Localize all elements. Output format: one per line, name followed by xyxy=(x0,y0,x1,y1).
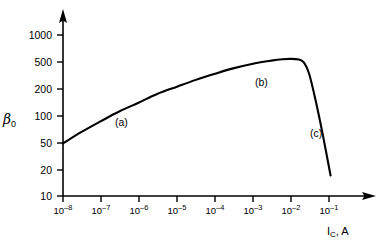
x-tick-exp: –3 xyxy=(254,203,262,212)
x-axis-title: IC, A xyxy=(327,226,349,237)
y-axis-ticks xyxy=(57,35,63,196)
x-tick-exp: –5 xyxy=(178,203,186,212)
x-tick-label-1e-7: 10–7 xyxy=(81,206,121,216)
x-tick-base: 10 xyxy=(92,205,103,216)
x-tick-label-1e-8: 10–8 xyxy=(43,206,83,216)
x-axis-title-suffix: , A xyxy=(336,225,349,237)
y-axis-title-main: β xyxy=(3,111,11,127)
x-tick-base: 10 xyxy=(206,205,217,216)
x-tick-label-1e-2: 10–2 xyxy=(271,206,311,216)
x-tick-base: 10 xyxy=(282,205,293,216)
annotation-c: (c) xyxy=(310,128,322,139)
y-tick-label-200: 200 xyxy=(8,84,52,95)
y-axis-title-sub: 0 xyxy=(11,119,16,129)
y-tick-label-500: 500 xyxy=(8,57,52,68)
y-axis xyxy=(59,9,67,196)
y-tick-label-1000: 1000 xyxy=(8,30,52,41)
x-tick-base: 10 xyxy=(320,205,331,216)
y-tick-label-10: 10 xyxy=(8,191,52,202)
x-tick-exp: –8 xyxy=(64,203,72,212)
annotation-b: (b) xyxy=(255,77,268,88)
x-tick-label-1e-3: 10–3 xyxy=(233,206,273,216)
x-tick-base: 10 xyxy=(244,205,255,216)
x-axis-ticks xyxy=(63,196,329,202)
figure-container: 1000 500 200 100 50 20 10 β0 10–8 10–7 1… xyxy=(0,0,382,249)
x-axis-title-sub: C xyxy=(330,230,336,239)
annotation-a: (a) xyxy=(115,117,128,128)
x-tick-exp: –7 xyxy=(102,203,110,212)
x-tick-exp: –6 xyxy=(140,203,148,212)
x-tick-exp: –2 xyxy=(292,203,300,212)
x-tick-label-1e-1: 10–1 xyxy=(309,206,349,216)
x-tick-base: 10 xyxy=(168,205,179,216)
x-tick-exp: –4 xyxy=(216,203,224,212)
x-tick-base: 10 xyxy=(54,205,65,216)
x-tick-base: 10 xyxy=(130,205,141,216)
x-tick-exp: –1 xyxy=(330,203,338,212)
x-tick-label-1e-5: 10–5 xyxy=(157,206,197,216)
beta0-curve xyxy=(63,59,331,176)
y-axis-title: β0 xyxy=(3,112,16,126)
x-tick-label-1e-4: 10–4 xyxy=(195,206,235,216)
x-tick-label-1e-6: 10–6 xyxy=(119,206,159,216)
y-tick-label-20: 20 xyxy=(8,165,52,176)
y-tick-label-50: 50 xyxy=(8,138,52,149)
